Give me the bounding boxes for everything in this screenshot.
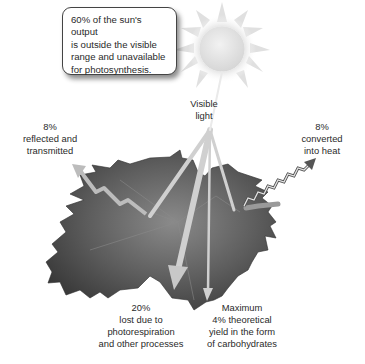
reflected-label: 8% reflected and transmitted	[15, 121, 85, 157]
label-line: transmitted	[15, 145, 85, 157]
label-line: 4% theoretical	[204, 314, 280, 326]
label-line: lost due to	[93, 314, 189, 326]
label-line: reflected and	[15, 133, 85, 145]
label-line: yield in the form	[204, 326, 280, 338]
label-line: and other processes	[93, 338, 189, 350]
label-line: into heat	[292, 145, 352, 157]
label-line: Visible	[178, 98, 230, 110]
label-line: converted	[292, 133, 352, 145]
label-line: 8%	[292, 121, 352, 133]
label-line: 8%	[15, 121, 85, 133]
visible-light-label: Visible light	[178, 98, 230, 122]
callout-line: for photosynthesis.	[71, 64, 170, 76]
heat-label: 8% converted into heat	[292, 121, 352, 157]
photorespiration-label: 20% lost due to photorespiration and oth…	[93, 302, 189, 350]
label-line: Maximum	[204, 302, 280, 314]
carbohydrate-yield-label: Maximum 4% theoretical yield in the form…	[204, 302, 280, 350]
label-line: light	[178, 110, 230, 122]
label-line: 20%	[93, 302, 189, 314]
label-line: photorespiration	[93, 326, 189, 338]
sun-output-callout: 60% of the sun's output is outside the v…	[62, 7, 177, 75]
callout-line: is outside the visible	[71, 39, 170, 51]
callout-line: 60% of the sun's output	[71, 14, 170, 39]
label-line: of carbohydrates	[204, 338, 280, 350]
callout-line: range and unavailable	[71, 51, 170, 63]
